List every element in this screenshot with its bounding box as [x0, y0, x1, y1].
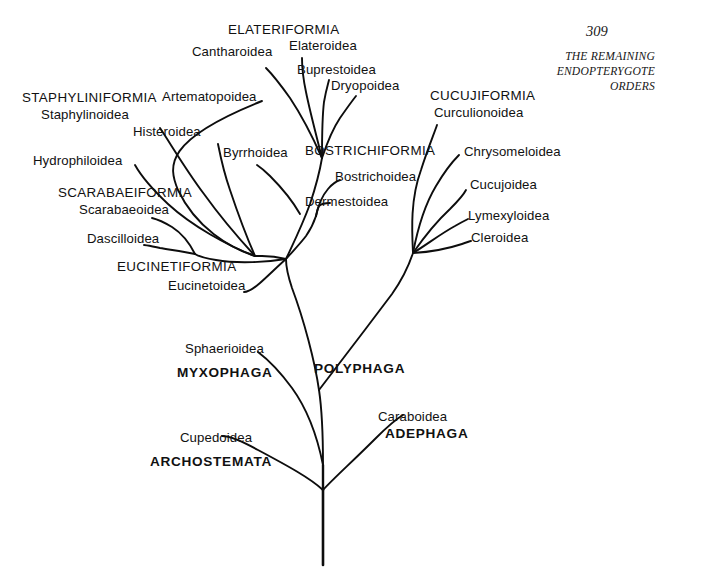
- branch-byrrhoidea: [257, 165, 300, 214]
- branch-histeroidea: [218, 144, 255, 256]
- suborder-label-polyphaga: POLYPHAGA: [314, 362, 405, 376]
- suborder-label-adephaga: ADEPHAGA: [385, 427, 468, 441]
- diagram-page: 309 THE REMAINING ENDOPTERYGOTE ORDERS: [0, 0, 701, 572]
- superfamily-label-eucinetoidea: Eucinetoidea: [168, 279, 245, 292]
- superfamily-label-cleroidea: Cleroidea: [471, 231, 528, 244]
- superfamily-label-cupedoidea: Cupedoidea: [180, 431, 252, 444]
- superfamily-label-dermestoidea: Dermestoidea: [305, 195, 388, 208]
- series-label-scarabaeiformia: SCARABAEIFORMIA: [58, 186, 192, 199]
- series-label-staphyliniformia: STAPHYLINIFORMIA: [22, 91, 157, 104]
- branch-staphyliniformia-stem: [255, 256, 286, 259]
- superfamily-label-byrrhoidea: Byrrhoidea: [223, 146, 288, 159]
- branch-eucinetoidea: [244, 259, 286, 292]
- superfamily-label-scarabaeoidea: Scarabaeoidea: [79, 203, 169, 216]
- superfamily-label-curculionoidea: Curculionoidea: [434, 106, 523, 119]
- superfamily-label-artematopoidea: Artematopoidea: [162, 90, 257, 103]
- suborder-label-archostemata: ARCHOSTEMATA: [150, 455, 272, 469]
- branch-bostrichiformia-stem: [286, 216, 316, 259]
- series-label-eucinetiformia: EUCINETIFORMIA: [117, 260, 236, 273]
- superfamily-label-cucujoidea: Cucujoidea: [470, 178, 537, 191]
- branch-dascilloidea: [144, 245, 195, 254]
- superfamily-label-staphylinoidea: Staphylinoidea: [41, 108, 129, 121]
- superfamily-label-dascilloidea: Dascilloidea: [87, 232, 159, 245]
- superfamily-label-elateroidea: Elateroidea: [289, 39, 357, 52]
- suborder-label-myxophaga: MYXOPHAGA: [177, 366, 272, 380]
- superfamily-label-caraboidea: Caraboidea: [378, 410, 447, 423]
- superfamily-label-bostrichoidea: Bostrichoidea: [335, 170, 416, 183]
- series-label-cucujiformia: CUCUJIFORMIA: [430, 89, 535, 102]
- superfamily-label-sphaerioidea: Sphaerioidea: [185, 342, 264, 355]
- superfamily-label-histeroidea: Histeroidea: [133, 125, 201, 138]
- superfamily-label-chrysomeloidea: Chrysomeloidea: [464, 145, 561, 158]
- series-label-elateriformia: ELATERIFORMIA: [228, 23, 339, 36]
- series-label-bostrichiformia: BOSTRICHIFORMIA: [305, 144, 435, 157]
- branch-lymexyloidea: [413, 219, 468, 253]
- superfamily-label-hydrophiloidea: Hydrophiloidea: [33, 154, 122, 167]
- superfamily-label-buprestoidea: Buprestoidea: [297, 63, 376, 76]
- superfamily-label-cantharoidea: Cantharoidea: [192, 45, 272, 58]
- superfamily-label-lymexyloidea: Lymexyloidea: [468, 209, 549, 222]
- superfamily-label-dryopoidea: Dryopoidea: [331, 79, 399, 92]
